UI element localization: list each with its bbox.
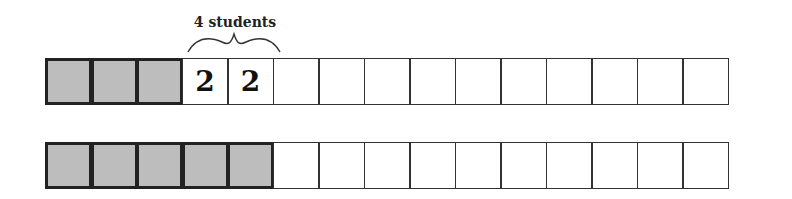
empty-cell [546, 58, 593, 105]
empty-cell [273, 142, 320, 189]
shaded-cell [182, 142, 229, 189]
empty-cell [364, 142, 411, 189]
shaded-cell [91, 142, 138, 189]
shaded-cell [136, 142, 183, 189]
empty-cell [455, 58, 502, 105]
brace-label: 4 students [185, 14, 285, 30]
empty-cell [455, 142, 502, 189]
empty-cell [637, 142, 684, 189]
shaded-cell [227, 142, 274, 189]
tape-row-2 [45, 142, 729, 189]
shaded-cell [136, 58, 183, 105]
empty-cell [591, 58, 638, 105]
empty-cell: 2 [227, 58, 274, 105]
shaded-cell [45, 142, 92, 189]
empty-cell [682, 58, 729, 105]
empty-cell [682, 142, 729, 189]
shaded-cell [91, 58, 138, 105]
empty-cell [318, 58, 365, 105]
empty-cell [500, 58, 547, 105]
empty-cell [409, 142, 456, 189]
empty-cell [409, 58, 456, 105]
empty-cell [500, 142, 547, 189]
empty-cell [318, 142, 365, 189]
empty-cell [591, 142, 638, 189]
empty-cell: 2 [182, 58, 229, 105]
empty-cell [546, 142, 593, 189]
tape-row-1: 22 [45, 58, 729, 105]
empty-cell [273, 58, 320, 105]
shaded-cell [45, 58, 92, 105]
curly-brace-icon [186, 30, 282, 54]
empty-cell [637, 58, 684, 105]
empty-cell [364, 58, 411, 105]
